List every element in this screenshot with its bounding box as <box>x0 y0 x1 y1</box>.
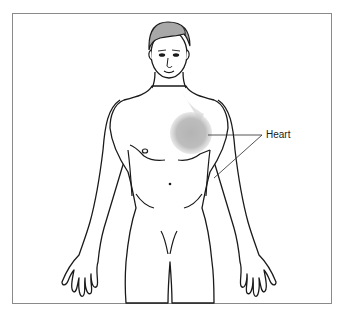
eye-right <box>173 53 179 57</box>
navel <box>169 183 172 186</box>
body-illustration <box>0 0 339 314</box>
heart-label: Heart <box>266 129 290 140</box>
torso <box>110 86 228 303</box>
head <box>149 22 190 78</box>
eye-left <box>159 53 165 57</box>
